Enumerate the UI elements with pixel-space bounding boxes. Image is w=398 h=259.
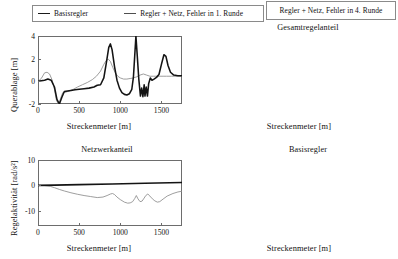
x-axis-label: Streckenmeter [m] — [200, 122, 398, 131]
x-tick-label: 1500 — [154, 106, 169, 115]
x-axis-label: Streckenmeter [m] — [200, 244, 398, 253]
y-tick-mark — [38, 59, 41, 60]
x-tick-mark — [120, 101, 121, 104]
y-tick-mark — [38, 211, 41, 212]
legend-label: Regler + Netz, Fehler in 1. Runde — [140, 9, 243, 18]
x-tick-label: 1500 — [154, 228, 169, 237]
legend-right: Regler + Netz, Fehler in 4. Runde — [266, 1, 396, 20]
y-tick-mark — [38, 36, 41, 37]
x-tick-label: 1000 — [113, 106, 128, 115]
y-tick-label: 2 — [31, 54, 35, 63]
x-tick-mark — [161, 223, 162, 226]
x-tick-label: 500 — [73, 228, 84, 237]
panel-title: Basisregler — [200, 145, 398, 154]
x-axis-label: Streckenmeter [m] — [0, 122, 198, 131]
y-tick-label: -10 — [25, 206, 35, 215]
plot-lines-netzwerkanteil — [38, 160, 182, 226]
x-tick-mark — [38, 223, 39, 226]
x-tick-mark — [161, 101, 162, 104]
series-line — [38, 185, 182, 203]
panel-title: Gesamtregelanteil — [200, 23, 398, 32]
legend-label: Basisregler — [54, 9, 88, 18]
y-tick-mark — [38, 81, 41, 82]
legend-entry-runde4: Regler + Netz, Fehler in 4. Runde — [280, 6, 383, 15]
y-axis-label: Regelaktivität [rad/s²] — [10, 160, 19, 236]
legend-swatch-line-icon — [124, 13, 136, 14]
x-tick-mark — [79, 101, 80, 104]
y-tick-label: 10 — [27, 156, 35, 165]
x-tick-label: 500 — [73, 106, 84, 115]
legend-entry-runde1: Regler + Netz, Fehler in 1. Runde — [124, 9, 243, 18]
y-tick-label: 0 — [31, 181, 35, 190]
panel-querablage: Querablage [m] 050010001500-2024 Strecke… — [0, 26, 198, 140]
x-tick-label: 0 — [36, 228, 40, 237]
legend-left: Basisregler Regler + Netz, Fehler in 1. … — [32, 5, 264, 22]
plot-lines-querablage — [38, 36, 182, 104]
series-line — [38, 183, 182, 186]
y-axis-label: Querablage [m] — [10, 58, 19, 112]
series-line — [38, 36, 182, 104]
y-tick-label: 4 — [31, 32, 35, 41]
legend-swatch-line-icon — [38, 13, 50, 14]
figure-root: Basisregler Regler + Netz, Fehler in 1. … — [0, 0, 398, 259]
x-tick-mark — [120, 223, 121, 226]
plot-area-querablage: 050010001500-2024 — [38, 36, 182, 104]
x-tick-mark — [79, 223, 80, 226]
panel-gesamtregelanteil: Gesamtregelanteil Regelaktivität [rad/s²… — [200, 22, 398, 140]
y-tick-mark — [38, 104, 41, 105]
y-tick-label: -2 — [29, 100, 35, 109]
panel-basisregler: Basisregler Regelaktivität [rad/s²] 0500… — [200, 142, 398, 259]
plot-area-netzwerkanteil: 050010001500-10010 — [38, 160, 182, 226]
legend-label: Regler + Netz, Fehler in 4. Runde — [280, 6, 383, 15]
y-tick-mark — [38, 185, 41, 186]
y-tick-label: 0 — [31, 77, 35, 86]
legend-entry-basisregler: Basisregler — [38, 9, 88, 18]
y-tick-mark — [38, 160, 41, 161]
x-axis-label: Streckenmeter [m] — [0, 244, 198, 253]
panel-title: Netzwerkanteil — [0, 145, 198, 154]
panel-netzwerkanteil: Netzwerkanteil Regelaktivität [rad/s²] 0… — [0, 142, 198, 259]
x-tick-label: 0 — [36, 106, 40, 115]
x-tick-label: 1000 — [113, 228, 128, 237]
